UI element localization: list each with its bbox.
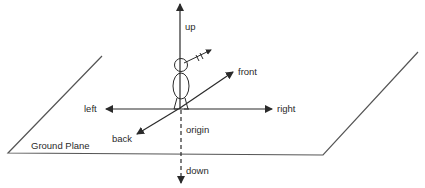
label-right: right: [277, 103, 296, 114]
back-axis: [137, 108, 180, 134]
label-ground-plane: Ground Plane: [31, 140, 90, 151]
gaze-arrow: [184, 50, 211, 63]
label-front: front: [238, 66, 257, 77]
label-up: up: [185, 21, 196, 32]
front-axis: [180, 72, 233, 108]
label-origin: origin: [186, 124, 209, 135]
figure-body: [173, 73, 189, 99]
label-back: back: [112, 133, 132, 144]
label-down: down: [186, 165, 209, 176]
figure-head: [175, 59, 188, 72]
coordinate-diagram: up front left right back origin Ground P…: [0, 0, 425, 188]
label-left: left: [84, 103, 97, 114]
